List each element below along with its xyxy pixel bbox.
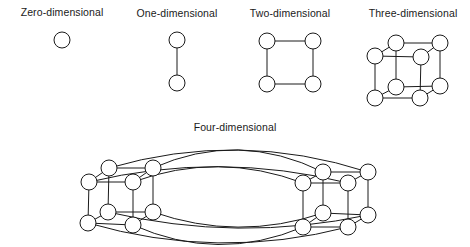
nodes-layer <box>54 32 448 235</box>
edges-layer <box>88 40 440 245</box>
four-node <box>340 219 356 235</box>
three-node <box>412 90 428 106</box>
four-node <box>295 175 311 191</box>
three-node <box>432 35 448 51</box>
three-node <box>388 79 404 95</box>
three-node <box>413 49 429 65</box>
three-node <box>388 35 404 51</box>
four-node <box>145 204 161 220</box>
two-node <box>305 33 321 49</box>
one-node <box>169 75 185 91</box>
four-node <box>125 217 141 233</box>
three-node <box>432 78 448 94</box>
two-node <box>305 76 321 92</box>
four-node <box>80 215 96 231</box>
four-node <box>295 219 311 235</box>
one-node <box>169 32 185 48</box>
four-node <box>340 175 356 191</box>
four-node <box>125 174 141 190</box>
two-node <box>259 76 275 92</box>
three-node <box>367 48 383 64</box>
zero-node <box>54 32 70 48</box>
four-node <box>101 160 117 176</box>
hypercube-diagram-canvas <box>0 0 470 247</box>
four-node <box>145 160 161 176</box>
four-node <box>360 164 376 180</box>
four-node <box>360 207 376 223</box>
four-node <box>100 204 116 220</box>
two-node <box>259 33 275 49</box>
four-node <box>315 164 331 180</box>
four-node <box>81 174 97 190</box>
three-node <box>367 90 383 106</box>
four-node <box>315 205 331 221</box>
